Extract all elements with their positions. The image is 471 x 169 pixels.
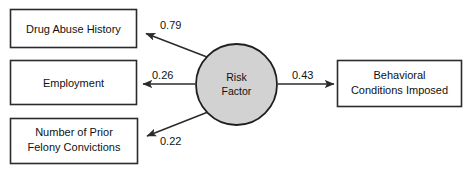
- edge-risk-factor-to-drug-abuse-history: [146, 34, 207, 58]
- node-label-behavioral-conditions-imposed-line2: Conditions Imposed: [351, 84, 448, 96]
- path-diagram: Drug Abuse History Employment Number of …: [0, 0, 471, 169]
- edge-label-0-79: 0.79: [160, 19, 181, 31]
- node-label-behavioral-conditions-imposed-line1: Behavioral: [374, 69, 426, 81]
- edge-label-0-26: 0.26: [152, 69, 173, 81]
- node-label-employment: Employment: [43, 77, 104, 89]
- edge-label-0-22: 0.22: [160, 135, 181, 147]
- edge-label-0-43: 0.43: [292, 69, 313, 81]
- edge-risk-factor-to-number-of-prior-felony-convictions: [147, 112, 208, 136]
- node-label-risk-factor-line1: Risk: [226, 71, 247, 83]
- node-label-risk-factor-line2: Factor: [222, 85, 252, 97]
- node-label-number-of-prior-felony-convictions-line2: Felony Convictions: [28, 141, 121, 153]
- node-label-number-of-prior-felony-convictions-line1: Number of Prior: [35, 126, 113, 138]
- node-label-drug-abuse-history: Drug Abuse History: [26, 23, 121, 35]
